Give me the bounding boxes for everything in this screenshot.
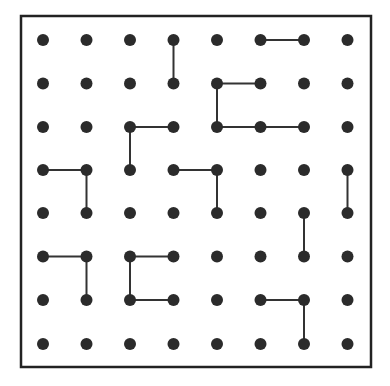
grid-dot [342,121,354,133]
grid-dot [124,207,136,219]
grid-dot [81,338,93,350]
grid-dot [37,251,49,263]
grid-dot [211,207,223,219]
grid-dot [168,121,180,133]
grid-dot [168,164,180,176]
grid-dot [124,338,136,350]
grid-dot [168,294,180,306]
grid-dot [298,207,310,219]
grid-dot [211,251,223,263]
grid-dot [211,78,223,90]
grid-dot [124,251,136,263]
grid-dot [298,294,310,306]
grid-dot [255,34,267,46]
grid-dot [342,164,354,176]
grid-dot [81,78,93,90]
grid-dot [124,121,136,133]
grid-dot [168,34,180,46]
grid-dot [298,34,310,46]
grid-dot [37,78,49,90]
grid-dot [81,251,93,263]
grid-dot [124,164,136,176]
grid-dot [342,78,354,90]
grid-dot [255,121,267,133]
grid-dot [37,121,49,133]
grid-dot [168,338,180,350]
grid-dot [255,164,267,176]
grid-dot [342,207,354,219]
grid-dot [81,121,93,133]
grid-dot [211,164,223,176]
grid-dot [211,294,223,306]
grid-dot [342,251,354,263]
grid-dot [211,121,223,133]
grid-dot [124,34,136,46]
grid-dot [37,164,49,176]
grid-dot [81,164,93,176]
grid-dot [342,34,354,46]
grid-dot [342,294,354,306]
grid-dot [168,207,180,219]
grid-dot [168,251,180,263]
grid-dot [298,164,310,176]
grid-dot [37,294,49,306]
grid-dot [124,78,136,90]
grid-dot [255,207,267,219]
grid-dot [255,78,267,90]
grid-dot [298,78,310,90]
grid-dot [298,121,310,133]
grid-dot [255,338,267,350]
grid-dot [298,338,310,350]
grid-dot [124,294,136,306]
grid-dot [342,338,354,350]
grid-dot [255,251,267,263]
grid-dot [211,34,223,46]
grid-dot [37,338,49,350]
dot-grid-diagram [0,0,390,386]
grid-dot [211,338,223,350]
grid-dot [81,294,93,306]
grid-dot [37,207,49,219]
grid-dot [255,294,267,306]
square-frame [21,16,371,367]
grid-dot [81,34,93,46]
grid-dot [168,78,180,90]
grid-dot [37,34,49,46]
grid-dot [81,207,93,219]
grid-dot [298,251,310,263]
dot-grid [37,34,354,350]
